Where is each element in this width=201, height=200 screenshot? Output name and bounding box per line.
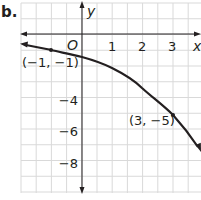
x-axis-right-arrow-icon [194, 32, 201, 37]
point-neg1-neg1 [49, 48, 53, 52]
origin-label: O [67, 37, 78, 53]
x-tick-label: 1 [108, 39, 116, 54]
part-label: b. [1, 3, 17, 21]
x-tick-label: 2 [138, 39, 146, 54]
graph: b. y x O 1 2 3 −4 −6 −8 (−1, −1) (3, −5) [0, 0, 201, 200]
point-label: (3, −5) [129, 113, 175, 128]
x-tick-label: 3 [168, 39, 176, 54]
point-label: (−1, −1) [22, 55, 79, 70]
x-axis [20, 32, 201, 37]
y-axis-label: y [86, 3, 96, 19]
grid [21, 3, 201, 193]
y-axis-down-arrow-icon [80, 187, 85, 194]
x-axis-label: x [192, 38, 201, 54]
y-axis-up-arrow-icon [80, 1, 85, 8]
y-tick-label: −8 [59, 156, 78, 171]
y-tick-label: −4 [59, 93, 78, 108]
y-tick-label: −6 [59, 124, 78, 139]
